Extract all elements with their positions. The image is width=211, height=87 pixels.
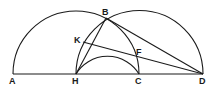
geometry-diagram: A H C D B K F	[0, 0, 211, 87]
segment-BD	[106, 18, 203, 74]
segment-KD	[83, 42, 203, 74]
label-K: K	[74, 35, 81, 45]
label-F: F	[136, 47, 142, 57]
semicircle-HD	[76, 11, 203, 74]
label-D: D	[199, 76, 206, 86]
label-C: C	[135, 76, 142, 86]
label-A: A	[9, 76, 16, 86]
segment-HB	[76, 18, 106, 74]
label-B: B	[102, 7, 109, 17]
label-H: H	[72, 76, 79, 86]
arc-HBC	[76, 56, 139, 74]
